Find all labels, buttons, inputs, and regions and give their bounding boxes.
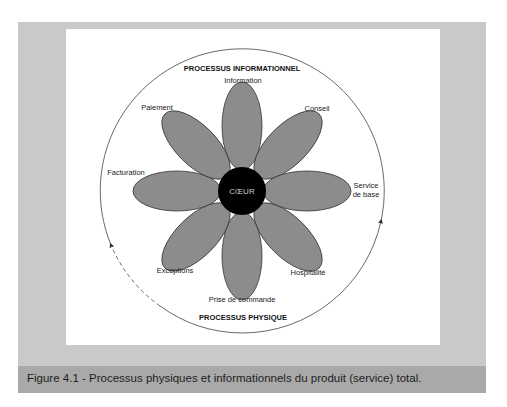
core-label: CŒUR — [229, 187, 255, 196]
label-prise-de-commande: Prise de commande — [209, 295, 276, 304]
top-arc-label: PROCESSUS INFORMATIONNEL — [184, 64, 301, 73]
figure-caption: Figure 4.1 - Processus physiques et info… — [27, 372, 421, 384]
bottom-arc-label: PROCESSUS PHYSIQUE — [199, 313, 287, 322]
label-conseil: Conseil — [304, 104, 329, 113]
flower-diagram: CŒUR PROCESSUS INFORMATIONNEL PROCESSUS … — [0, 0, 507, 407]
label-service-line1: Service — [353, 181, 378, 190]
label-information: Information — [224, 76, 262, 85]
label-facturation: Facturation — [107, 168, 145, 177]
label-exceptions: Exceptions — [157, 266, 194, 275]
label-service-line2: de base — [353, 190, 380, 199]
label-hospitalite: Hospitalité — [290, 268, 325, 277]
label-paiement: Paiement — [141, 103, 174, 112]
dashed-arc-left — [111, 245, 160, 306]
